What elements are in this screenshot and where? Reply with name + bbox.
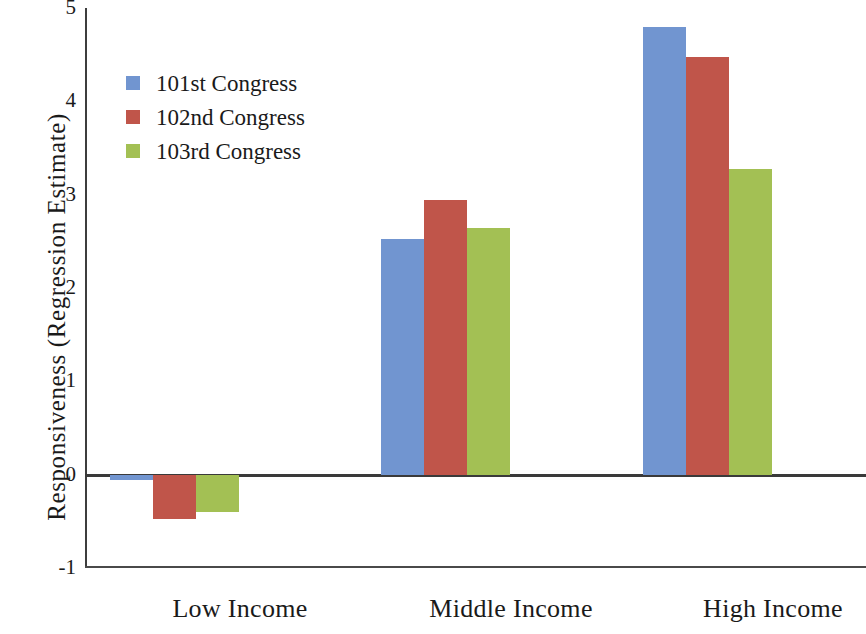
legend-label: 102nd Congress (156, 106, 305, 129)
bar[interactable] (729, 169, 772, 474)
legend-label: 101st Congress (156, 72, 297, 95)
bar-group (381, 8, 510, 568)
bar[interactable] (110, 475, 153, 481)
y-tick-label: 3 (14, 184, 76, 205)
bar[interactable] (381, 239, 424, 474)
y-tick-label: 5 (14, 0, 76, 18)
legend-swatch-icon (126, 76, 140, 90)
bar[interactable] (686, 57, 729, 475)
bar[interactable] (467, 228, 510, 474)
bar-group (643, 8, 772, 568)
y-tick-label: 2 (14, 277, 76, 298)
legend-item[interactable]: 103rd Congress (126, 134, 356, 168)
x-axis-tick-labels: Low IncomeMiddle IncomeHigh Income (85, 592, 866, 634)
y-axis-tick-labels: 543210-1 (0, 0, 76, 634)
bar[interactable] (153, 475, 196, 520)
bar[interactable] (643, 27, 686, 475)
legend-item[interactable]: 102nd Congress (126, 100, 356, 134)
y-tick-label: 4 (14, 90, 76, 111)
legend-label: 103rd Congress (156, 140, 301, 163)
y-tick-label: -1 (14, 557, 76, 578)
y-axis-line (85, 8, 87, 568)
y-tick-label: 0 (14, 464, 76, 485)
legend: 101st Congress102nd Congress103rd Congre… (126, 66, 356, 168)
legend-swatch-icon (126, 110, 140, 124)
x-tick-label: High Income (653, 592, 866, 626)
bar[interactable] (424, 200, 467, 474)
bar[interactable] (196, 475, 239, 512)
legend-swatch-icon (126, 144, 140, 158)
y-tick-label: 1 (14, 370, 76, 391)
x-tick-label: Low Income (120, 592, 360, 626)
x-tick-label: Middle Income (391, 592, 631, 626)
bar-chart-figure: Responsiveness (Regression Estimate) 543… (0, 0, 866, 634)
legend-item[interactable]: 101st Congress (126, 66, 356, 100)
